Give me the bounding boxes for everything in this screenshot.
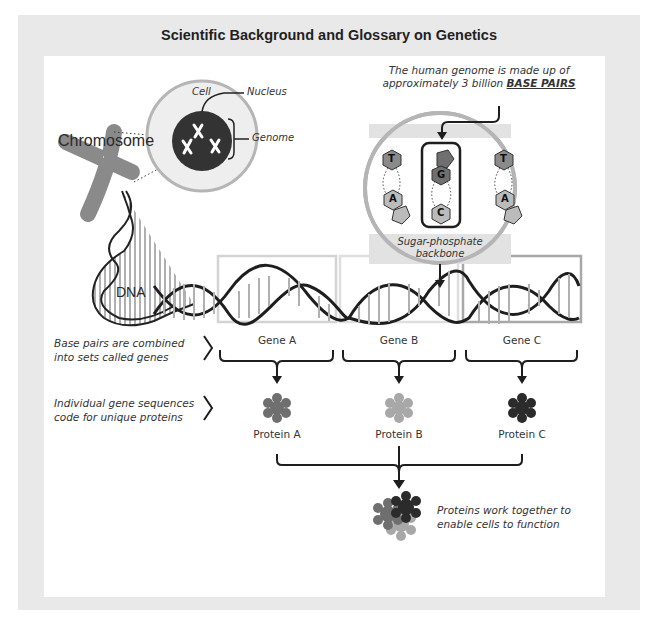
chevron-right-icon [204,396,212,420]
dna-label: DNA [116,284,146,300]
base-a-right: A [501,193,509,204]
protein-c-icon [508,393,536,423]
nucleus-label: Nucleus [247,86,287,97]
base-t-left: T [388,153,395,164]
base-a-left: A [389,193,397,204]
proteins-note: Individual gene sequences code for uniqu… [54,396,204,424]
genome-note: The human genome is made up of approxima… [369,64,589,90]
backbone-label: Sugar-phosphate backbone [390,236,490,260]
gene-a-label: Gene A [218,334,336,346]
protein-b-label: Protein B [349,428,449,440]
gene-b-label: Gene B [340,334,458,346]
figure-title: Scientific Background and Glossary on Ge… [18,15,640,55]
combine-arrow-head [393,480,405,489]
together-note: Proteins work together to enable cells t… [437,503,587,531]
diagram-panel: Chromosome Cell Nucleus Genome DNA The h… [44,56,605,597]
dna-strand-icon [93,191,194,325]
base-g-center: G [437,169,445,180]
base-pairs-emphasis: BASE PAIRS [507,77,576,89]
protein-b-icon [385,393,413,423]
protein-a-label: Protein A [227,428,327,440]
gene-braces [220,350,577,368]
gene-c-label: Gene C [463,334,581,346]
chromosome-label: Chromosome [58,132,154,150]
gene-to-protein-arrows [272,368,527,384]
protein-a-icon [263,393,291,423]
cell-icon [147,81,257,191]
base-c-center: C [437,207,444,218]
base-t-right: T [500,153,507,164]
protein-c-label: Protein C [472,428,572,440]
chevron-right-icon [204,336,212,360]
genome-label: Genome [252,132,294,143]
cell-label: Cell [192,86,211,97]
combined-proteins-icon [373,491,421,541]
figure-frame: Scientific Background and Glossary on Ge… [18,15,640,610]
genes-note: Base pairs are combined into sets called… [54,336,199,364]
